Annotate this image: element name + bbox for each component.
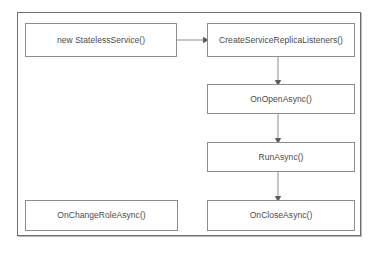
node-label: OnCloseAsync() — [250, 211, 313, 220]
node-new-stateless-service[interactable]: new StatelessService() — [25, 23, 177, 57]
diagram-canvas: new StatelessService() CreateServiceRepl… — [0, 0, 377, 253]
node-run-async[interactable]: RunAsync() — [207, 142, 355, 172]
node-create-service-replica-listeners[interactable]: CreateServiceReplicaListeners() — [207, 23, 355, 57]
node-label: CreateServiceReplicaListeners() — [219, 36, 343, 45]
node-on-change-role-async[interactable]: OnChangeRoleAsync() — [25, 200, 178, 231]
node-on-open-async[interactable]: OnOpenAsync() — [207, 84, 355, 114]
node-label: new StatelessService() — [57, 36, 145, 45]
node-label: RunAsync() — [259, 153, 304, 162]
node-on-close-async[interactable]: OnCloseAsync() — [207, 200, 355, 231]
node-label: OnOpenAsync() — [250, 95, 312, 104]
node-label: OnChangeRoleAsync() — [57, 211, 145, 220]
